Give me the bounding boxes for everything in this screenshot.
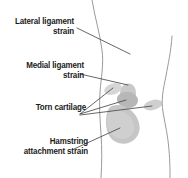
leader-medial-ligament	[80, 74, 128, 85]
knee-injury-diagram: Lateral ligament strain Medial ligament …	[0, 0, 188, 178]
label-medial-ligament-strain: Medial ligament strain	[0, 60, 84, 81]
cartilage-blob-lateral	[143, 98, 164, 112]
leader-lines	[74, 28, 152, 149]
leader-lateral-ligament	[77, 28, 130, 54]
label-lateral-ligament-strain: Lateral ligament strain	[0, 16, 74, 37]
back-leg-contour	[162, 36, 172, 178]
anatomy-shapes	[103, 81, 164, 144]
label-hamstring-attachment-strain: Hamstring attachment strain	[0, 136, 88, 157]
front-leg-contour	[92, 0, 103, 178]
label-torn-cartilage: Torn cartilage	[2, 102, 86, 112]
